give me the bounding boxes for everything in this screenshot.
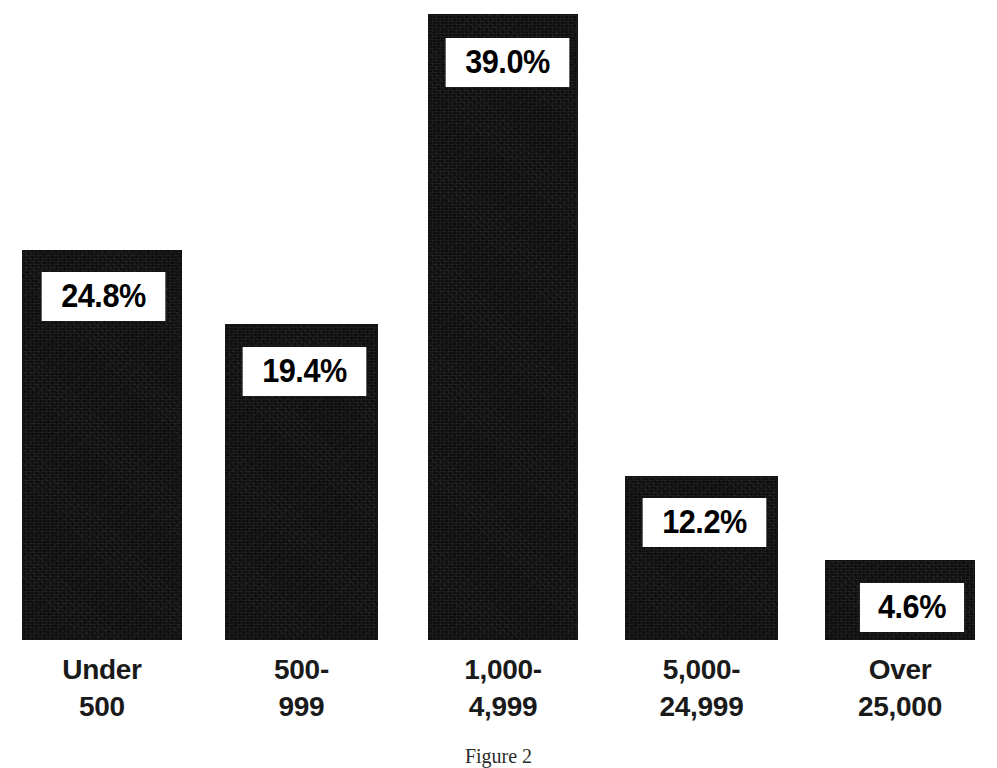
category-label-5000-24999: 5,000- 24,999: [625, 651, 778, 725]
bar-1000-4999: [428, 14, 578, 640]
bar-value-label-over-25000: 4.6%: [860, 583, 964, 632]
category-label-line-2: 4,999: [428, 688, 578, 725]
bar-value-label-5000-24999: 12.2%: [643, 498, 767, 547]
category-label-line-1: Over: [869, 654, 932, 685]
bar-value-label-500-999: 19.4%: [243, 347, 367, 396]
category-label-under-500: Under 500: [22, 651, 182, 725]
category-label-line-2: 24,999: [625, 688, 778, 725]
category-label-line-2: 999: [225, 688, 378, 725]
category-label-line-1: 1,000-: [464, 654, 542, 685]
category-label-line-1: Under: [62, 654, 141, 685]
category-label-1000-4999: 1,000- 4,999: [428, 651, 578, 725]
category-label-line-1: 500-: [274, 654, 329, 685]
category-label-500-999: 500- 999: [225, 651, 378, 725]
bar-chart-plot-area: 24.8% 19.4% 39.0% 12.2% 4.6%: [0, 0, 997, 645]
bar-value-label-under-500: 24.8%: [42, 272, 166, 321]
category-label-over-25000: Over 25,000: [825, 651, 975, 725]
figure-caption: Figure 2: [0, 744, 997, 768]
category-label-line-2: 25,000: [825, 688, 975, 725]
category-label-line-2: 500: [22, 688, 182, 725]
category-label-line-1: 5,000-: [663, 654, 741, 685]
bar-value-label-1000-4999: 39.0%: [446, 38, 570, 87]
